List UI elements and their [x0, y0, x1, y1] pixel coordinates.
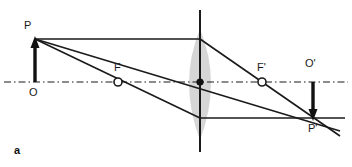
label-object-top-p: P: [24, 20, 31, 31]
object-arrow-head: [31, 36, 40, 48]
label-object-base-o: O: [29, 87, 38, 98]
label-image-tip-p-prime: P': [308, 123, 317, 134]
parallel-ray-refracted: [200, 39, 340, 136]
label-image-base-o-prime: O': [305, 58, 316, 69]
focal-point-f-marker: [114, 78, 122, 86]
ray-diagram-canvas: [0, 0, 352, 167]
label-focal-right-f-prime: F': [257, 62, 266, 73]
label-focal-left-f: F: [114, 62, 121, 73]
ray-diagram-figure: P O F F' O' P' a: [0, 0, 352, 167]
optical-center-marker: [196, 78, 203, 85]
focal-point-f-prime-marker: [258, 78, 266, 86]
panel-label-a: a: [14, 145, 20, 156]
